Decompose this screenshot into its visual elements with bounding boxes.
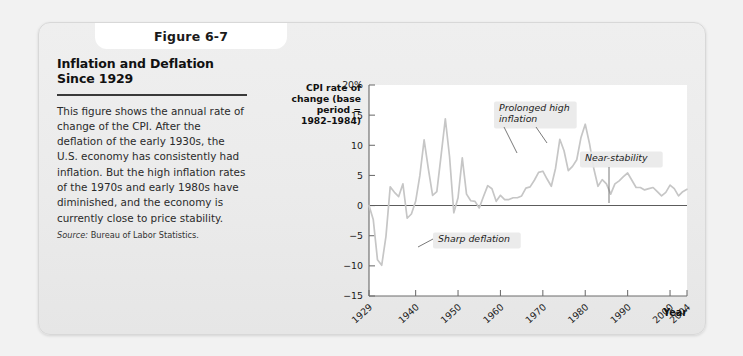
y-tick-label: 15 <box>351 110 363 121</box>
title-divider <box>57 94 247 96</box>
figure-source: Source: Bureau of Labor Statistics. <box>57 230 247 241</box>
x-tick-label: 1960 <box>481 301 506 325</box>
cpi-rate-of-change-line-chart: CPI rate ofchange (baseperiod =1982–1984… <box>255 43 699 325</box>
annotation-label: Sharp deflation <box>438 233 510 244</box>
y-tick-label: −5 <box>349 230 363 241</box>
chart-annotation: Sharp deflation <box>418 233 521 249</box>
x-tick-label: 1940 <box>396 301 421 325</box>
figure-description: This figure shows the annual rate of cha… <box>57 104 247 226</box>
x-axis-title-group: Year <box>662 307 687 318</box>
figure-number-label: Figure 6-7 <box>154 29 228 44</box>
annotation-label: inflation <box>499 113 537 124</box>
y-tick-label: −10 <box>343 260 363 271</box>
x-axis-title: Year <box>662 307 687 318</box>
figure-card: Figure 6-7 Inflation and Deflation Since… <box>38 22 706 335</box>
source-text: Bureau of Labor Statistics. <box>88 230 199 240</box>
screenshot-root: Figure 6-7 Inflation and Deflation Since… <box>0 0 743 356</box>
figure-title: Inflation and Deflation Since 1929 <box>57 56 247 87</box>
y-tick-label: 10 <box>351 140 363 151</box>
y-tick-label: 20% <box>342 79 363 90</box>
x-tick-label: 1970 <box>523 301 548 325</box>
x-tick-label: 1929 <box>349 301 374 325</box>
chart-container: CPI rate ofchange (baseperiod =1982–1984… <box>255 43 699 325</box>
annotation-label: Near-stability <box>585 152 648 163</box>
y-axis-title-line: change (base <box>292 93 361 104</box>
y-tick-label: 0 <box>357 200 363 211</box>
x-tick-label: 1990 <box>608 301 633 325</box>
y-tick-label: 5 <box>357 170 363 181</box>
x-tick-label: 1980 <box>565 301 590 325</box>
x-tick-label: 1950 <box>438 301 463 325</box>
source-label: Source: <box>57 230 88 240</box>
y-tick-label: −15 <box>343 290 363 301</box>
annotation-label: Prolonged high <box>499 102 570 113</box>
figure-caption-column: Inflation and Deflation Since 1929 This … <box>57 56 247 241</box>
